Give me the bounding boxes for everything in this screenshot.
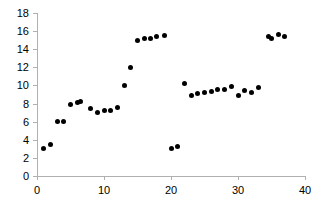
x-axis-tick bbox=[104, 176, 105, 180]
x-axis-tick-label: 0 bbox=[24, 185, 50, 196]
data-point bbox=[269, 36, 274, 41]
y-axis-tick-label: 18 bbox=[9, 8, 29, 19]
x-axis-tick bbox=[171, 176, 172, 180]
data-point bbox=[48, 142, 53, 147]
x-axis-line bbox=[37, 176, 306, 177]
plot-area bbox=[37, 13, 305, 176]
data-point bbox=[115, 105, 120, 110]
data-point bbox=[88, 106, 93, 111]
data-point bbox=[209, 89, 214, 94]
data-point bbox=[169, 146, 174, 151]
data-point bbox=[61, 119, 66, 124]
data-point bbox=[189, 93, 194, 98]
data-point bbox=[215, 87, 220, 92]
data-point bbox=[154, 34, 159, 39]
y-axis-tick-label: 10 bbox=[9, 80, 29, 91]
data-point bbox=[162, 33, 167, 38]
data-point bbox=[102, 108, 107, 113]
y-axis-tick-label: 2 bbox=[9, 153, 29, 164]
data-point bbox=[68, 102, 73, 107]
data-point bbox=[41, 146, 46, 151]
y-axis-tick-label: 6 bbox=[9, 117, 29, 128]
y-axis-tick-label: 8 bbox=[9, 99, 29, 110]
data-point bbox=[276, 32, 281, 37]
data-point bbox=[256, 85, 261, 90]
data-point bbox=[242, 88, 247, 93]
y-axis-tick-label: 0 bbox=[9, 171, 29, 182]
data-point bbox=[148, 36, 153, 41]
data-point bbox=[55, 119, 60, 124]
x-axis-tick bbox=[305, 176, 306, 180]
data-point bbox=[182, 81, 187, 86]
x-axis-tick-label: 40 bbox=[292, 185, 318, 196]
x-axis-tick-label: 30 bbox=[225, 185, 251, 196]
x-axis-tick bbox=[37, 176, 38, 180]
data-point bbox=[195, 91, 200, 96]
x-axis-tick-label: 20 bbox=[158, 185, 184, 196]
data-point bbox=[236, 93, 241, 98]
data-point bbox=[122, 83, 127, 88]
data-point bbox=[142, 36, 147, 41]
data-point bbox=[282, 34, 287, 39]
x-axis-tick bbox=[238, 176, 239, 180]
y-axis-tick-label: 4 bbox=[9, 135, 29, 146]
data-point bbox=[128, 65, 133, 70]
y-axis-tick-label: 14 bbox=[9, 44, 29, 55]
x-axis-tick-label: 10 bbox=[91, 185, 117, 196]
y-axis-tick-label: 12 bbox=[9, 62, 29, 73]
data-point bbox=[202, 90, 207, 95]
data-point bbox=[175, 144, 180, 149]
data-point bbox=[249, 90, 254, 95]
y-axis-tick-label: 16 bbox=[9, 26, 29, 37]
data-point bbox=[135, 38, 140, 43]
scatter-chart: 024681012141618 010203040 bbox=[0, 0, 321, 209]
data-point bbox=[78, 99, 83, 104]
data-point bbox=[95, 110, 100, 115]
data-point bbox=[108, 108, 113, 113]
data-point bbox=[229, 84, 234, 89]
data-point bbox=[222, 87, 227, 92]
